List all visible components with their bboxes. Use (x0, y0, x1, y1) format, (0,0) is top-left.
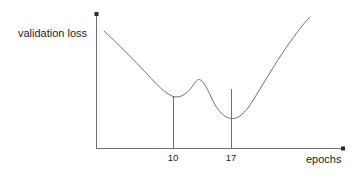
validation-loss-chart: validation loss epochs 10 17 (0, 0, 362, 176)
validation-loss-curve (104, 17, 310, 119)
x-axis-end-dot (341, 147, 345, 151)
x-tick-label-17: 17 (219, 153, 243, 163)
y-axis-end-dot (95, 12, 99, 16)
y-axis-label: validation loss (18, 28, 87, 39)
x-tick-label-10: 10 (161, 153, 185, 163)
x-axis-label: epochs (306, 154, 341, 165)
